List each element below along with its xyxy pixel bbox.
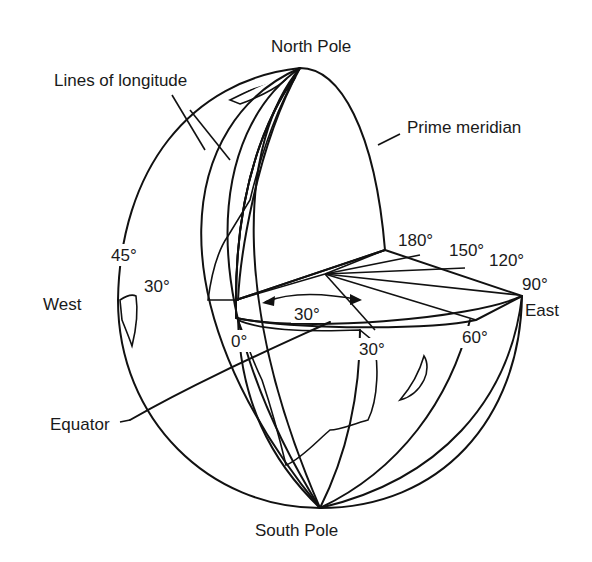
degree-label-30-east: 30° [359, 340, 385, 359]
degree-label-180-east: 180° [398, 231, 433, 250]
south-pole-label: South Pole [255, 521, 338, 540]
degree-label-30-west: 30° [144, 277, 170, 296]
degree-label-120-east: 120° [489, 251, 524, 270]
east-label: East [525, 301, 559, 320]
degree-label-90-east: 90° [522, 275, 548, 294]
north-pole-label: North Pole [271, 37, 351, 56]
degree-label-0: 0° [231, 332, 247, 351]
degree-label-45-west: 45° [111, 246, 137, 265]
west-label: West [43, 295, 82, 314]
labels: North Pole Lines of longitude Prime meri… [43, 37, 559, 540]
degree-label-60-east: 60° [462, 328, 488, 347]
equator-label: Equator [50, 415, 110, 434]
degree-label-150-east: 150° [449, 241, 484, 260]
globe-longitude-diagram: North Pole Lines of longitude Prime meri… [0, 0, 592, 562]
lines-of-longitude-label: Lines of longitude [54, 71, 187, 90]
cutaway-section [236, 68, 522, 330]
prime-meridian-label: Prime meridian [407, 118, 521, 137]
degree-label-wedge-30: 30° [294, 305, 320, 324]
